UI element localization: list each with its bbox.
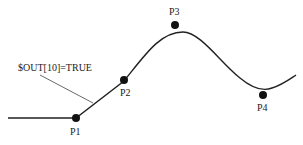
point-p1-label: P1 xyxy=(70,126,81,137)
motion-path xyxy=(8,32,296,118)
point-p4-marker xyxy=(259,91,267,99)
path-diagram: $OUT[10]=TRUE P1 P2 P3 P4 xyxy=(0,0,303,145)
annotation-label: $OUT[10]=TRUE xyxy=(18,62,92,73)
annotation-leader-line xyxy=(40,75,93,103)
point-p1-marker xyxy=(72,114,80,122)
point-p3-marker xyxy=(171,21,179,29)
point-p4-label: P4 xyxy=(257,102,268,113)
point-p3-label: P3 xyxy=(169,6,180,17)
point-p2-label: P2 xyxy=(120,87,131,98)
point-p2-marker xyxy=(120,76,128,84)
